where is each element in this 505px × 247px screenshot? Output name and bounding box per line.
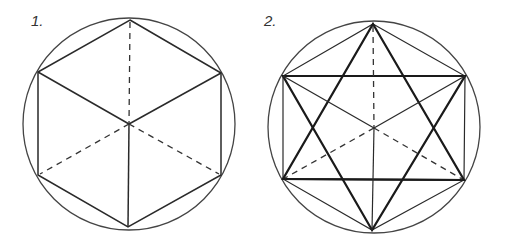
figure-1-cube-in-circle: [23, 18, 235, 230]
cube-edge-right: [374, 76, 465, 128]
hidden-edge-lower-right: [129, 124, 219, 174]
diagram-canvas: [0, 0, 505, 247]
figure-2-hexagram-in-circle: [268, 21, 480, 233]
cube-edge-right: [129, 73, 221, 124]
cube-edge-left: [38, 72, 129, 124]
cube-edge-vertical: [128, 124, 129, 227]
hidden-edge-top: [129, 22, 130, 124]
hidden-edge-lower-left: [40, 124, 129, 174]
cube-edge-left: [283, 76, 374, 128]
